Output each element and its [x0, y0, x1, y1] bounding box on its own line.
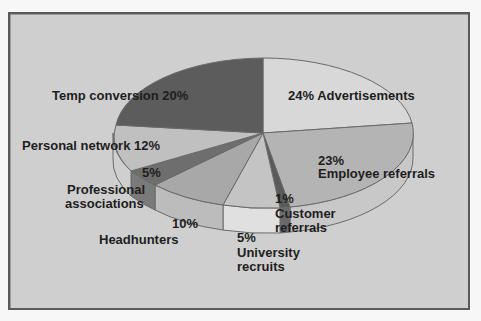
label-headhunters-pct: 10% [172, 216, 198, 231]
pie-top [114, 58, 413, 208]
label-advertisements: 24% Advertisements [288, 88, 415, 103]
label-university-1: University [237, 245, 301, 260]
label-professional-2: associations [65, 196, 144, 211]
pie-chart: Temp conversion 20% 24% Advertisements P… [0, 0, 481, 321]
label-university-pct: 5% [237, 230, 256, 245]
label-professional-pct: 5% [142, 165, 161, 180]
label-headhunters: Headhunters [99, 232, 178, 247]
label-customer-pct: 1% [275, 191, 294, 206]
label-temp-conversion: Temp conversion 20% [52, 88, 189, 103]
label-employee-referrals: Employee referrals [318, 166, 435, 181]
label-customer-1: Customer [275, 206, 336, 221]
label-professional-1: Professional [67, 182, 145, 197]
label-personal-network: Personal network 12% [22, 138, 160, 153]
label-customer-2: referrals [275, 220, 327, 235]
label-university-2: recruits [237, 259, 285, 274]
